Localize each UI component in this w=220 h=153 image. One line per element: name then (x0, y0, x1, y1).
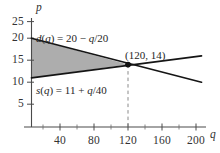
y-axis-label: p (36, 1, 42, 13)
x-axis-label: q (210, 128, 216, 140)
demand-function-label: d(q) = 20 − q/20 (36, 32, 108, 44)
x-tick-label-40: 40 (47, 134, 73, 146)
equilibrium-point-label: (120, 14) (125, 49, 165, 61)
x-tick-label-200: 200 (183, 134, 209, 146)
equilibrium-point-marker (125, 62, 131, 68)
x-tick-label-160: 160 (149, 134, 175, 146)
y-tick-label-25: 25 (4, 15, 24, 27)
y-tick-label-20: 20 (4, 31, 24, 43)
y-tick-label-5: 5 (4, 97, 24, 109)
y-tick-label-10: 10 (4, 75, 24, 87)
y-tick-label-15: 15 (4, 53, 24, 65)
supply-function-label: s(q) = 11 + q/40 (36, 84, 107, 96)
x-tick-label-80: 80 (81, 134, 107, 146)
chart-canvas (0, 0, 220, 153)
supply-demand-chart: p q 25 20 15 10 5 40 80 120 160 200 d(q)… (0, 0, 220, 153)
x-tick-label-120: 120 (115, 134, 141, 146)
